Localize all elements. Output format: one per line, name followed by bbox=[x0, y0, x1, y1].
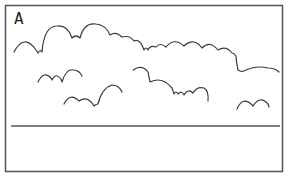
cloud-outline-top bbox=[14, 24, 279, 72]
panel-label: A bbox=[14, 11, 24, 27]
figure-frame bbox=[6, 6, 283, 172]
cloud-outline-middle bbox=[133, 67, 208, 101]
cloud-outline-lower-left bbox=[64, 85, 122, 106]
sketch-canvas bbox=[0, 0, 291, 178]
cloud-outline-small-left bbox=[38, 70, 82, 82]
figure-panel: A bbox=[0, 0, 291, 178]
cloud-outline-right bbox=[237, 100, 269, 109]
